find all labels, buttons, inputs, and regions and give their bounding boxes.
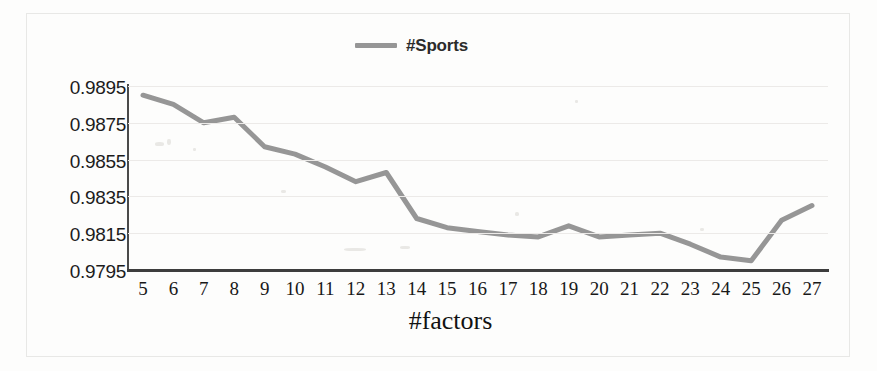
scan-artifact [515, 212, 519, 216]
legend-line-swatch [355, 43, 397, 48]
x-axis-tick-label: 5 [138, 278, 148, 300]
chart-screenshot: #Sports 0.98950.98750.98550.98350.98150.… [0, 0, 877, 371]
x-axis-tick-label: 10 [286, 278, 305, 300]
x-axis-tick-label: 21 [620, 278, 639, 300]
scan-artifact [400, 246, 410, 249]
x-axis-tick-label: 27 [803, 278, 822, 300]
x-axis-tick-label: 14 [407, 278, 426, 300]
scan-artifact [167, 139, 171, 145]
x-axis-tick-label: 11 [316, 278, 334, 300]
x-axis-tick-label: 26 [772, 278, 791, 300]
x-axis-tick-label: 24 [711, 278, 730, 300]
x-axis-title: #factors [0, 306, 877, 336]
gridline [128, 233, 828, 234]
x-axis-tick-label: 12 [346, 278, 365, 300]
y-axis-tick-label: 0.9875 [70, 114, 126, 136]
plot-area [128, 86, 828, 270]
scan-artifact [155, 142, 164, 146]
x-axis-tick-label: 19 [559, 278, 578, 300]
x-axis-tick-label: 13 [377, 278, 396, 300]
scan-artifact [281, 190, 286, 193]
gridline [128, 160, 828, 161]
x-axis-tick-label: 23 [681, 278, 700, 300]
line-chart: #Sports 0.98950.98750.98550.98350.98150.… [0, 0, 877, 371]
x-axis-tick-label: 20 [590, 278, 609, 300]
x-axis-tick-label: 6 [169, 278, 179, 300]
x-axis-title-text: #factors [409, 306, 493, 336]
x-axis-tick-label: 22 [650, 278, 669, 300]
y-axis-tick-label: 0.9855 [70, 151, 126, 173]
x-axis-tick-label: 7 [199, 278, 209, 300]
y-axis-tick-label: 0.9815 [70, 224, 126, 246]
x-axis-tick-label: 25 [742, 278, 761, 300]
x-axis-tick-label: 15 [438, 278, 457, 300]
y-axis-tick-label: 0.9835 [70, 187, 126, 209]
legend-entry-label: #Sports [406, 37, 468, 54]
scan-artifact [344, 248, 366, 251]
x-axis-tick-label: 8 [229, 278, 239, 300]
series-sports-line [128, 86, 828, 270]
y-axis-tick-label: 0.9895 [70, 77, 126, 99]
gridline [128, 196, 828, 197]
gridline [128, 123, 828, 124]
scan-artifact [700, 228, 704, 231]
x-axis-tick-label: 18 [529, 278, 548, 300]
x-axis-tick-label: 17 [498, 278, 517, 300]
scan-artifact [193, 148, 196, 151]
x-axis-tick-label: 16 [468, 278, 487, 300]
x-axis-tick-labels: 5678910111213141516171819202122232425262… [0, 278, 877, 304]
x-axis-tick-label: 9 [260, 278, 270, 300]
chart-legend: #Sports [355, 34, 468, 56]
scan-artifact [575, 100, 578, 103]
gridline [128, 86, 828, 87]
